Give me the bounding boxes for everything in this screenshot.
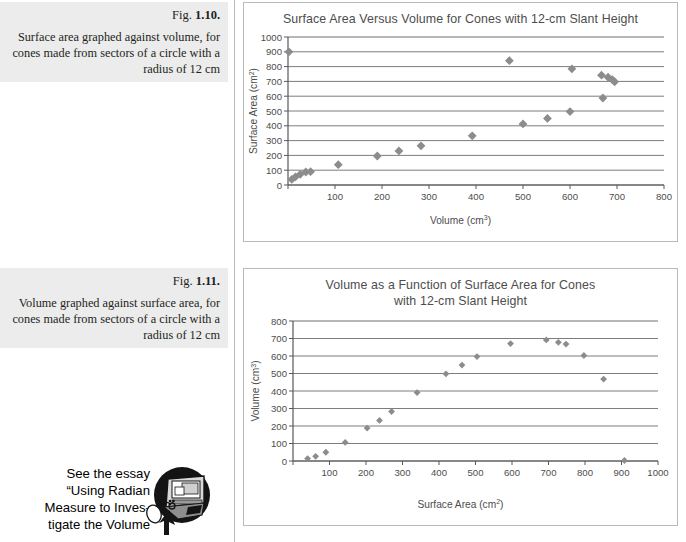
x-axis-tick-label: 400 [468,191,484,202]
data-point [459,362,466,369]
y-axis-tick-label: 700 [266,76,282,87]
x-axis-title-1-base: Volume (cm [430,216,484,227]
data-point [563,341,570,348]
chart-title-1: Surface Area Versus Volume for Cones wit… [254,11,667,27]
y-axis-tick-label: 0 [277,180,282,191]
figure-caption-block-2: Fig. 1.11. Volume graphed against surfac… [0,268,228,348]
data-point [507,340,514,347]
figure-label-prefix-1: Fig. [172,8,195,22]
figure-panel-2: Volume as a Function of Surface Area for… [243,268,678,526]
essay-line-2: “Using Radian [0,482,150,499]
y-axis-tick-label: 800 [271,316,287,327]
x-axis-tick-label: 800 [577,467,593,478]
essay-line-3: Measure to Inves- [0,499,150,516]
column-divider-rule [234,0,235,542]
y-axis-tick-label: 900 [266,47,282,58]
y-axis-tick-label: 700 [271,333,287,344]
x-axis-tick-label: 800 [656,191,672,202]
data-point [334,160,343,169]
figure-caption-text-2: Volume graphed against surface area, for… [8,296,220,344]
svg-text:Volume (cm3): Volume (cm3) [250,361,262,422]
y-axis-tick-label: 200 [266,150,282,161]
data-point [373,152,382,161]
data-point [414,389,421,396]
x-axis-tick-label: 100 [327,191,343,202]
x-axis-tick-label: 500 [515,191,531,202]
x-axis-tick-label: 200 [358,467,374,478]
data-point [599,94,608,103]
figure-panel-1: Surface Area Versus Volume for Cones wit… [243,2,678,242]
y-axis-tick-label: 500 [266,106,282,117]
figure-number-value-2: 1.11. [196,274,220,288]
y-axis-tick-label: 300 [266,135,282,146]
data-point [566,107,575,116]
y-axis-tick-label: 1000 [261,32,282,43]
x-axis-title-1: Volume (cm3) [244,214,677,226]
x-axis-tick-label: 600 [504,467,520,478]
data-point [474,353,481,360]
data-point [417,142,426,151]
data-point [376,417,383,424]
figure-number-2: Fig. 1.11. [8,274,220,289]
data-point [285,48,294,57]
svg-text:Surface Area (cm2): Surface Area (cm2) [248,68,260,154]
data-point [621,457,628,464]
y-axis-tick-label: 100 [266,165,282,176]
data-point [543,337,550,344]
y-axis-tick-label: 400 [271,386,287,397]
x-axis-tick-label: 400 [431,467,447,478]
x-axis-title-2-base: Surface Area (cm [417,500,496,511]
chart-title-2-line2: with 12-cm Slant Height [254,293,667,309]
data-point [306,167,315,176]
chart-plot-area-1: 0100200300400500600700800900100010020030… [244,27,677,212]
x-axis-tick-label: 300 [394,467,410,478]
x-axis-tick-label: 700 [609,191,625,202]
figure-label-prefix-2: Fig. [173,274,196,288]
data-point [600,376,607,383]
data-point [597,71,606,80]
data-point [468,132,477,141]
x-axis-title-2: Surface Area (cm2) [244,498,677,510]
x-axis-tick-label: 900 [613,467,629,478]
figure-number-1: Fig. 1.10. [8,8,220,23]
x-axis-tick-label: 600 [562,191,578,202]
x-axis-tick-label: 500 [467,467,483,478]
y-axis-tick-label: 200 [271,421,287,432]
data-point [519,120,528,129]
y-axis-tick-label: 600 [266,91,282,102]
figure-number-value-1: 1.10. [195,8,220,22]
x-axis-tick-label: 1000 [647,467,668,478]
chart-title-2: Volume as a Function of Surface Area for… [254,277,667,309]
data-point [581,352,588,359]
data-point [443,371,450,378]
x-axis-tick-label: 700 [540,467,556,478]
computer-mouse-icon [142,463,214,535]
chart-plot-area-2: 0100200300400500600700800100200300400500… [244,309,677,495]
data-point [342,439,349,446]
y-axis-tick-label: 400 [266,121,282,132]
x-axis-tick-label: 200 [374,191,390,202]
x-axis-tick-label: 300 [421,191,437,202]
figure-caption-block-1: Fig. 1.10. Surface area graphed against … [0,2,228,82]
scatter-plot-1: 0100200300400500600700800900100010020030… [244,27,677,212]
essay-cross-reference: See the essay “Using Radian Measure to I… [0,465,150,534]
essay-line-4: tigate the Volume [0,516,150,533]
y-axis-tick-label: 500 [271,368,287,379]
data-point [567,65,576,74]
y-axis-title: Surface Area (cm2) [248,68,260,154]
data-point [322,449,329,456]
x-axis-title-2-tail: ) [500,500,503,511]
data-point [505,56,514,65]
data-point [388,408,395,415]
y-axis-tick-label: 800 [266,61,282,72]
data-point [555,339,562,346]
data-point [395,147,404,156]
y-axis-tick-label: 600 [271,351,287,362]
figure-caption-text-1: Surface area graphed against volume, for… [8,30,220,78]
essay-line-1: See the essay [0,465,150,482]
data-point [312,453,319,460]
y-axis-tick-label: 300 [271,403,287,414]
y-axis-title: Volume (cm3) [250,361,262,422]
y-axis-tick-label: 100 [271,438,287,449]
scatter-plot-2: 0100200300400500600700800100200300400500… [244,309,677,495]
